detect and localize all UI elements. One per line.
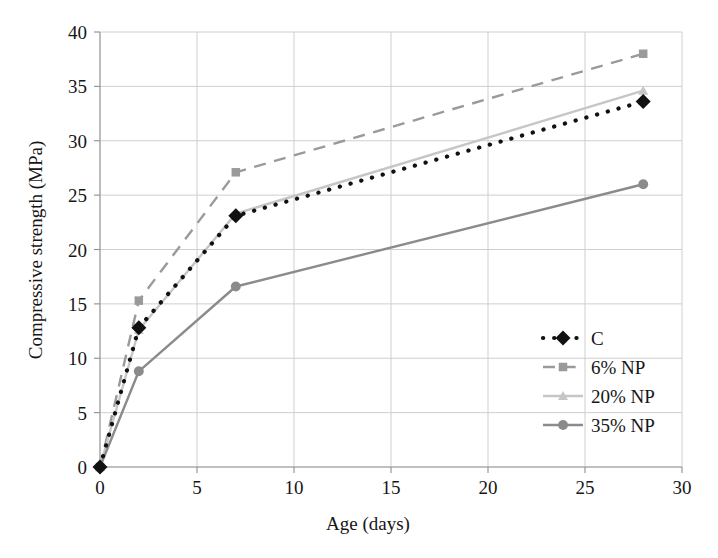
y-tick-label: 25 [68, 185, 87, 206]
legend-label: 20% NP [591, 386, 655, 407]
x-tick-label: 0 [95, 477, 105, 498]
data-point-marker [638, 179, 648, 189]
x-tick-label: 10 [285, 477, 304, 498]
legend-label: C [591, 328, 604, 349]
data-point-marker [559, 363, 568, 372]
data-point-marker [558, 420, 568, 430]
data-point-marker [232, 168, 241, 177]
data-point-marker [134, 366, 144, 376]
chart-container: 0510152025303540 051015202530 C6% NP20% … [0, 0, 718, 558]
legend-label: 6% NP [591, 357, 645, 378]
x-tick-label: 30 [673, 477, 692, 498]
data-point-marker [135, 296, 144, 305]
data-point-marker [231, 282, 241, 292]
x-axis-title: Age (days) [326, 513, 410, 535]
y-tick-label: 40 [68, 22, 87, 43]
x-tick-label: 5 [192, 477, 202, 498]
y-tick-label: 5 [78, 403, 88, 424]
y-axis-title: Compressive strength (MPa) [25, 141, 47, 359]
chart-background [0, 0, 718, 558]
compressive-strength-line-chart: 0510152025303540 051015202530 C6% NP20% … [0, 0, 718, 558]
y-tick-label: 30 [68, 131, 87, 152]
y-tick-label: 0 [78, 457, 88, 478]
x-tick-label: 20 [479, 477, 498, 498]
x-tick-label: 15 [382, 477, 401, 498]
x-tick-label: 25 [576, 477, 595, 498]
y-tick-label: 20 [68, 240, 87, 261]
legend-label: 35% NP [591, 415, 655, 436]
data-point-marker [639, 50, 648, 59]
y-tick-label: 35 [68, 76, 87, 97]
y-tick-label: 15 [68, 294, 87, 315]
y-tick-label: 10 [68, 348, 87, 369]
